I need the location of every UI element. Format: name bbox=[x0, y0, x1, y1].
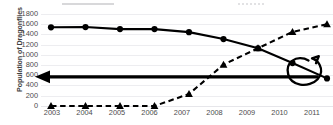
data-point-marker bbox=[186, 29, 192, 35]
x-tick-label: 2011 bbox=[292, 109, 332, 116]
data-point-marker bbox=[220, 36, 226, 42]
declining-series-markers bbox=[48, 24, 330, 82]
data-point-marker bbox=[82, 24, 88, 30]
data-point-marker bbox=[48, 24, 54, 30]
chart-legend bbox=[0, 0, 333, 7]
y-tick-label: 1400 bbox=[4, 30, 38, 37]
data-point-marker bbox=[185, 90, 193, 97]
data-point-marker bbox=[220, 61, 228, 68]
y-axis-tick-labels: 1800 1600 1400 1200 1000 800 600 400 200… bbox=[0, 14, 38, 106]
legend-swatch-declining-series bbox=[62, 3, 114, 7]
x-axis-tick-labels: 2003 2004 2005 2006 2007 2008 2009 2010 … bbox=[41, 108, 333, 122]
y-tick-label: 400 bbox=[4, 81, 38, 88]
y-tick-label: 200 bbox=[4, 92, 38, 99]
y-tick-label: 600 bbox=[4, 71, 38, 78]
dragonfly-population-chart: Population of Dragonflies 1800 1600 1400… bbox=[0, 0, 333, 125]
y-tick-label: 1600 bbox=[4, 20, 38, 27]
data-point-marker bbox=[151, 26, 157, 32]
legend-swatch-rising-series bbox=[238, 3, 264, 7]
plot-area bbox=[41, 14, 333, 106]
y-tick-label: 1800 bbox=[4, 10, 38, 17]
y-tick-label: 1200 bbox=[4, 41, 38, 48]
y-tick-label: 1000 bbox=[4, 51, 38, 58]
data-point-marker bbox=[117, 26, 123, 32]
y-tick-label: 800 bbox=[4, 61, 38, 68]
series-layer bbox=[41, 14, 333, 106]
data-point-marker bbox=[324, 75, 330, 81]
data-point-marker bbox=[289, 60, 295, 66]
